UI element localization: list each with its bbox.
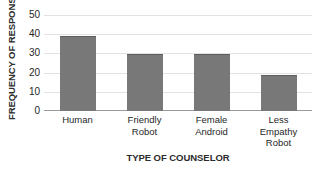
x-axis-tick-label: LessEmpathyRobot xyxy=(245,114,312,149)
y-axis-tick-label: 0 xyxy=(20,106,40,116)
y-axis-tick-label: 10 xyxy=(20,87,40,97)
x-axis-tick-label-line: Android xyxy=(178,126,245,138)
y-axis-tick-label: 50 xyxy=(20,10,40,20)
x-axis-tick-label: FemaleAndroid xyxy=(178,114,245,137)
x-axis-title: TYPE OF COUNSELOR xyxy=(44,152,312,163)
x-axis-tick-label: FriendlyRobot xyxy=(111,114,178,137)
x-axis-tick-label-line: Friendly xyxy=(111,114,178,126)
y-axis-tick-labels: 01020304050 xyxy=(20,0,40,171)
x-axis-tick-label-line: Robot xyxy=(111,126,178,138)
x-axis-tick-label-line: Empathy xyxy=(245,126,312,138)
x-axis-tick-label-line: Robot xyxy=(245,137,312,149)
y-axis-title: FREQUENCY OF RESPONSE xyxy=(5,2,19,120)
y-axis-tick-label: 40 xyxy=(20,29,40,39)
bar xyxy=(261,75,297,111)
x-axis-tick-label-line: Female xyxy=(178,114,245,126)
x-axis-tick-label: Human xyxy=(44,114,111,126)
y-axis-tick-label: 30 xyxy=(20,48,40,58)
x-axis-tick-label-line: Less xyxy=(245,114,312,126)
x-axis-tick-label-line: Human xyxy=(44,114,111,126)
y-axis-tick-label: 20 xyxy=(20,68,40,78)
bar-chart: FREQUENCY OF RESPONSE 01020304050 HumanF… xyxy=(0,0,316,171)
bars-layer xyxy=(44,0,312,111)
bar xyxy=(127,54,163,111)
bar xyxy=(194,54,230,111)
bar xyxy=(60,36,96,111)
